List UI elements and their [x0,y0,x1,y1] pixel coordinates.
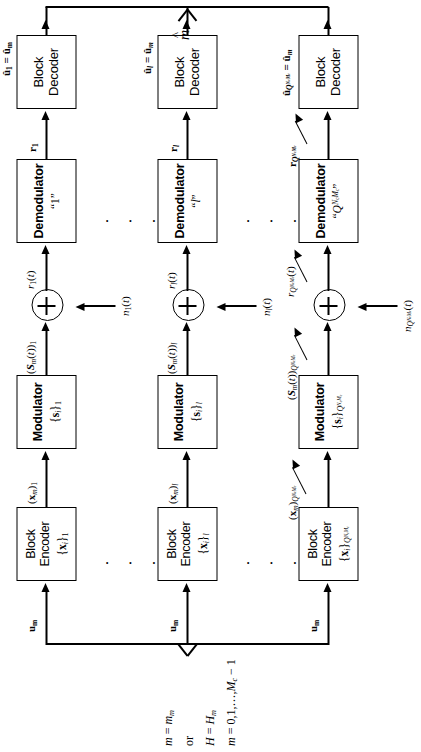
branch-l-demod-to-dec-wire [186,117,188,159]
ellipsis-demodulator-upper: · · · [104,214,163,230]
branch-Q-demod-out-leader-arrow [291,112,302,124]
branch-1-decoder-title-2: Decoder [46,48,61,96]
branch-1-adder-to-demod-wire [45,251,47,291]
ellipsis-demodulator-lower: · · · [245,214,304,230]
branch-l-encoder-title-2: Encoder [178,521,192,566]
ellipsis-encoder-lower: · · · [245,556,304,572]
output-bus-lower [186,6,328,8]
block-diagram-canvas: m = mm or H = Hm m = 0,1,…,Mc − 1 um Blo… [0,0,421,752]
branch-Q-encoder-title-2: Encoder [319,521,333,566]
branch-Q-modulator-out-leader-arrow [290,326,301,338]
branch-Q-adder-out-label: rQNcMc(t) [283,266,297,297]
branch-1-block-decoder[interactable]: Block Decoder [16,35,76,109]
branch-Q-modulator[interactable]: Modulator {si}QNcMc [298,375,358,449]
branch-1-adder [31,289,63,321]
branch-l-noise-wire [224,305,256,307]
branch-Q-demodulator-out-label: rQNcMc [285,145,299,167]
ellipsis-encoder-upper: · · · [104,556,163,572]
branch-l-demodulator-title: Demodulator [172,164,186,239]
input-bus-upper [46,643,188,645]
branch-l-noise-label: nl(t) [259,298,273,316]
branch-l-mod-to-adder-wire [186,328,188,375]
branch-Q-mod-to-adder-wire [327,328,329,375]
branch-Q-decoder-out-arrow [323,20,331,29]
branch-Q-demodulator-sub: “QNcMc” [330,184,344,219]
branch-1-encoder-out-label: (xm)1 [24,482,38,504]
branch-l-modulator-sub: {si}l [189,402,203,422]
branch-l-demodulator-sub: “l” [189,194,202,207]
branch-l-modulator-out-label: (Sm(t))l [164,343,178,374]
branch-1-noise-arrow [75,303,84,311]
branch-Q-block-decoder[interactable]: Block Decoder [298,35,358,109]
figure-stage: m = mm or H = Hm m = 0,1,…,Mc − 1 um Blo… [0,0,421,752]
input-spec-line-1: m = mm [160,710,175,746]
branch-l-enc-to-mod-arrow [182,451,190,460]
branch-1-mod-to-adder-wire [45,328,47,375]
branch-1-demod-to-dec-arrow [41,111,49,120]
branch-l-decoder-out-label: ûl = ûm [140,42,154,74]
branch-Q-modulator-title: Modulator [312,383,326,442]
branch-1-noise-wire [83,305,115,307]
branch-Q-encoder-out-label: (xm)QNcMc [285,486,299,520]
branch-1-block-encoder[interactable]: Block Encoder {xi}1 [16,507,76,581]
input-bus-chevron-lower [186,644,196,657]
branch-Q-block-encoder[interactable]: Block Encoder {xi}QNcMc [298,507,358,581]
branch-l-demod-to-dec-arrow [182,111,190,120]
input-spec-line-2: or [181,736,196,746]
branch-1-noise-label: n1(t) [118,296,132,316]
branch-1-mod-to-adder-arrow [41,322,49,331]
output-bus-upper [45,6,187,8]
branch-Q-demod-out-leader [294,121,307,145]
branch-Q-adder [313,289,345,321]
branch-Q-adder-to-demod-arrow [323,245,331,254]
branch-l-encoder-out-label: (xm)l [165,484,179,504]
branch-Q-encoder-sub: {xi}QNcMc [337,526,351,562]
branch-1-decoder-title-1: Block [31,57,46,88]
output-estimate-label: ^m [176,30,192,40]
branch-1-modulator[interactable]: Modulator {si}1 [16,375,76,449]
branch-1-input-arrow [41,583,49,592]
branch-Q-enc-to-mod-wire [327,457,329,507]
branch-1-demod-to-dec-wire [45,117,47,159]
branch-1-modulator-sub: {si}1 [48,401,62,423]
branch-1-modulator-out-label: (Sm(t))1 [23,341,37,374]
branch-l-modulator-title: Modulator [171,383,185,442]
branch-1-demodulator-title: Demodulator [31,164,45,239]
branch-Q-encoder-title-1: Block [305,529,319,559]
branch-1-decoder-out-arrow [41,20,49,29]
branch-1-enc-to-mod-wire [45,457,47,507]
branch-l-decoder-title-2: Decoder [187,48,202,96]
branch-l-input-label: um [165,620,179,632]
input-spec-line-3: H = Hm [202,710,217,746]
branch-Q-modulator-out-label: (Sm(t))QNcMc [284,355,298,400]
branch-Q-input-arrow [323,583,331,592]
branch-l-demodulator-out-label: rl [166,145,180,152]
branch-Q-demodulator-title: Demodulator [313,164,327,239]
branch-Q-decoder-title-2: Decoder [328,48,343,96]
branch-l-decoder-title-1: Block [172,57,187,88]
branch-1-encoder-title-1: Block [23,529,37,559]
branch-1-demodulator-out-label: r1 [25,143,39,152]
branch-l-enc-to-mod-wire [186,457,188,507]
branch-Q-modulator-sub: {si}QNcMc [330,395,344,430]
branch-1-demodulator-sub: “1” [48,193,61,209]
branch-Q-noise-label: nQNcMc(t) [400,300,414,332]
branch-l-adder [172,289,204,321]
branch-1-encoder-sub: {xi}1 [55,533,69,556]
branch-l-encoder-sub: {xi}l [196,533,210,554]
branch-l-modulator[interactable]: Modulator {si}l [157,375,217,449]
branch-1-demodulator[interactable]: Demodulator “1” [16,159,76,243]
branch-l-block-decoder[interactable]: Block Decoder [157,35,217,109]
branch-Q-demod-to-dec-arrow [323,111,331,120]
branch-l-adder-to-demod-wire [186,251,188,291]
branch-Q-enc-to-mod-arrow [323,451,331,460]
branch-l-encoder-title-1: Block [164,529,178,559]
branch-l-demodulator[interactable]: Demodulator “l” [157,159,217,243]
branch-Q-demodulator[interactable]: Demodulator “QNcMc” [298,159,358,243]
branch-l-block-encoder[interactable]: Block Encoder {xi}l [157,507,217,581]
branch-l-input-wire [186,589,188,645]
branch-l-adder-to-demod-arrow [182,245,190,254]
branch-l-decoder-out-arrow [182,20,190,29]
branch-1-adder-to-demod-arrow [41,245,49,254]
branch-1-enc-to-mod-arrow [41,451,49,460]
